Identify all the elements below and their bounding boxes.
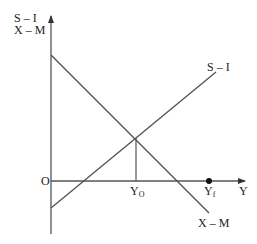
yf-label: Yf <box>204 185 215 201</box>
curve-x-m-label: X – M <box>198 217 229 229</box>
y-axis-label-line2: X – M <box>14 24 45 36</box>
origin-label: O <box>41 175 50 187</box>
y0-label-main: Y <box>130 184 139 198</box>
curve-s-i-label: S – I <box>207 61 230 73</box>
yf-label-main: Y <box>204 184 213 198</box>
y0-label-sub: O <box>139 190 145 199</box>
y0-label: YO <box>130 185 144 201</box>
x-axis-label: Y <box>239 185 248 197</box>
yf-label-sub: f <box>213 190 216 199</box>
